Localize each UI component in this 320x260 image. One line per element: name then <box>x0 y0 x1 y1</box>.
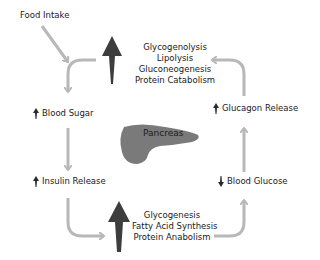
catabolic-line: Gluconeogenesis <box>126 64 224 75</box>
anabolic-line: Glycogenesis <box>132 210 212 221</box>
insulin-up-icon <box>33 176 39 187</box>
pancreas-label: Pancreas <box>143 128 183 138</box>
blood-glucose-label: Blood Glucose <box>227 176 288 187</box>
insulin-to-anabolic-arrow <box>68 198 104 236</box>
catabolic-to-blood-sugar-arrow <box>68 60 96 92</box>
food-intake-arrow <box>42 26 68 62</box>
catabolic-line: Protein Catabolism <box>126 75 224 86</box>
catabolic-up-arrow <box>102 36 122 84</box>
blood-sugar-label: Blood Sugar <box>42 108 94 119</box>
blood-sugar-up-icon <box>33 108 39 119</box>
catabolic-line: Glycogenolysis <box>126 42 224 53</box>
catabolic-line: Lipolysis <box>126 53 224 64</box>
blood-glucose-down-icon <box>218 176 224 187</box>
insulin-release-label: Insulin Release <box>42 176 106 187</box>
food-intake-label: Food Intake <box>20 10 69 21</box>
anabolic-processes: Glycogenesis Fatty Acid Synthesis Protei… <box>132 210 212 243</box>
anabolic-up-arrow <box>108 201 130 252</box>
anabolic-line: Fatty Acid Synthesis <box>132 221 212 232</box>
anabolic-to-blood-glucose-arrow <box>214 200 244 236</box>
glucagon-up-icon <box>213 103 219 114</box>
anabolic-line: Protein Anabolism <box>132 232 212 243</box>
catabolic-processes: Glycogenolysis Lipolysis Gluconeogenesis… <box>126 42 224 86</box>
glucagon-release-label: Glucagon Release <box>222 103 298 114</box>
